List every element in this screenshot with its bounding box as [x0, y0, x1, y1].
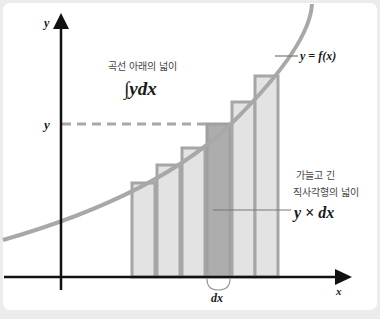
strip-label-line2: 직사각형의 넓이: [293, 187, 359, 198]
bar-2: [157, 165, 180, 277]
x-axis-arrow-icon: [335, 269, 352, 285]
curve-label: y = f(x): [298, 49, 336, 63]
bar-5: [232, 102, 255, 277]
strip-label-line1: 가늘고 긴: [296, 170, 335, 181]
riemann-bars: [132, 76, 278, 277]
y-axis-label: y: [42, 16, 50, 30]
integral-label: ∫ydx: [123, 78, 157, 101]
bar-6: [255, 76, 278, 277]
area-title: 곡선 아래의 넓이: [108, 61, 177, 72]
bar-1: [132, 183, 155, 277]
bar-highlight: [207, 124, 230, 277]
area-under-curve-diagram: y y x dx 곡선 아래의 넓이 ∫ydx y = f(x) 가늘고 긴 직…: [0, 0, 380, 319]
y-level-label: y: [42, 117, 50, 132]
strip-formula: y × dx: [292, 204, 334, 222]
y-axis-arrow-icon: [53, 13, 69, 29]
bar-3: [182, 148, 205, 277]
dx-bracket: [207, 279, 230, 290]
x-axis-label: x: [335, 285, 342, 297]
dx-label: dx: [211, 291, 223, 305]
